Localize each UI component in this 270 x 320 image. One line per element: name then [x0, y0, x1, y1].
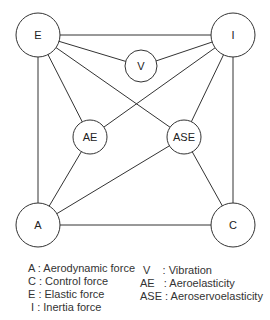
node-ase: ASE — [167, 120, 201, 154]
node-label: E — [34, 29, 41, 41]
node-label: C — [229, 219, 237, 231]
node-label: V — [137, 60, 145, 72]
legend-item-vibration: V : Vibration — [140, 264, 263, 277]
legend: A : Aerodynamic force C : Control force … — [0, 262, 270, 320]
node-e: E — [16, 13, 60, 57]
diagram-nodes: EIVAEASEAC — [16, 13, 255, 247]
legend-phenomena: V : Vibration AE : Aeroelasticity ASE : … — [140, 264, 263, 303]
legend-item-aeroelasticity: AE : Aeroelasticity — [140, 277, 263, 290]
legend-item-inertia-force: I : Inertia force — [28, 301, 135, 314]
node-a: A — [16, 203, 60, 247]
node-c: C — [211, 203, 255, 247]
legend-item-aerodynamic-force: A : Aerodynamic force — [28, 262, 135, 275]
legend-item-elastic-force: E : Elastic force — [28, 288, 135, 301]
node-ae: AE — [73, 120, 107, 154]
node-label: I — [231, 29, 234, 41]
node-label: ASE — [173, 131, 195, 143]
node-label: AE — [83, 131, 98, 143]
edge-a-ase — [38, 137, 184, 225]
node-i: I — [211, 13, 255, 57]
force-interaction-diagram: EIVAEASEAC — [0, 0, 270, 260]
node-v: V — [125, 50, 157, 82]
legend-forces: A : Aerodynamic force C : Control force … — [28, 262, 135, 314]
legend-item-control-force: C : Control force — [28, 275, 135, 288]
node-label: A — [34, 219, 42, 231]
legend-item-aeroservoelasticity: ASE : Aeroservoelasticity — [140, 290, 263, 303]
